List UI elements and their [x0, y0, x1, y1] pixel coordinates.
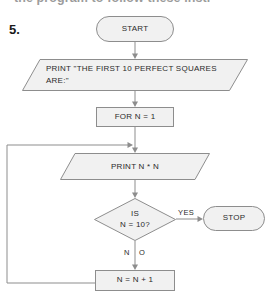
edge-label-yes: YES [178, 208, 194, 217]
node-print-header: PRINT "THE FIRST 10 PERFECT SQUARES ARE:… [22, 59, 248, 91]
node-print-square-label: PRINT N * N [60, 153, 210, 180]
node-stop-label: STOP [223, 213, 246, 224]
arrow-loop-back [128, 142, 134, 148]
node-decision: IS N = 10? [94, 198, 176, 241]
exercise-number: 5. [9, 22, 20, 37]
page-header-fragment: the program to follow these instr [14, 0, 266, 5]
node-decision-label-line2: N = 10? [120, 220, 150, 230]
node-for-loop-label: FOR N = 1 [115, 112, 156, 123]
node-decision-label: IS N = 10? [94, 198, 176, 241]
node-decision-label-line1: IS [120, 209, 150, 219]
flowchart-connectors [0, 0, 270, 301]
edge-label-no-first-letter: N [124, 248, 130, 257]
flowchart-page: the program to follow these instr 5. STA… [0, 0, 270, 301]
node-print-header-label: PRINT "THE FIRST 10 PERFECT SQUARES ARE:… [46, 59, 226, 91]
node-increment: N = N + 1 [95, 270, 175, 291]
node-start-label: START [122, 24, 149, 35]
node-for-loop: FOR N = 1 [96, 107, 174, 127]
node-start: START [96, 16, 174, 42]
node-print-square: PRINT N * N [60, 153, 210, 180]
node-increment-label: N = N + 1 [117, 275, 154, 286]
edge-label-no-second-letter: O [139, 248, 145, 257]
node-stop: STOP [203, 206, 265, 231]
